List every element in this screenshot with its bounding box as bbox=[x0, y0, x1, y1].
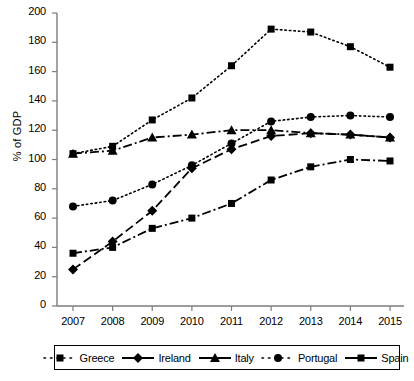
data-point bbox=[70, 250, 77, 257]
data-point bbox=[307, 113, 315, 121]
data-point bbox=[268, 177, 275, 184]
y-axis-ticks bbox=[52, 13, 57, 306]
x-tick-label: 2013 bbox=[291, 315, 331, 327]
data-point bbox=[307, 163, 314, 170]
data-point bbox=[386, 113, 394, 121]
data-point bbox=[387, 64, 394, 71]
x-tick-label: 2008 bbox=[93, 315, 133, 327]
data-point bbox=[228, 200, 235, 207]
legend-item-italy[interactable]: Italy bbox=[198, 351, 257, 365]
data-point bbox=[148, 180, 156, 188]
legend-label: Greece bbox=[80, 352, 115, 364]
series-greece bbox=[70, 26, 394, 158]
x-tick-label: 2010 bbox=[172, 315, 212, 327]
data-point bbox=[149, 116, 156, 123]
data-point bbox=[267, 117, 275, 125]
legend-item-portugal[interactable]: Portugal bbox=[261, 351, 340, 365]
data-point bbox=[268, 26, 275, 33]
x-tick-label: 2009 bbox=[132, 315, 172, 327]
y-tick-label: 60 bbox=[16, 210, 46, 222]
legend-label: Portugal bbox=[298, 352, 337, 364]
data-series-group bbox=[68, 26, 395, 275]
x-tick-label: 2011 bbox=[212, 315, 252, 327]
legend-item-ireland[interactable]: Ireland bbox=[121, 351, 193, 365]
data-point bbox=[69, 202, 77, 210]
legend-swatch-square-icon bbox=[344, 351, 378, 365]
legend-swatch-triangle-icon bbox=[198, 351, 232, 365]
legend-label: Ireland bbox=[158, 352, 190, 364]
x-tick-label: 2007 bbox=[53, 315, 93, 327]
legend-label: Italy bbox=[235, 352, 254, 364]
series-spain bbox=[70, 156, 394, 257]
y-tick-label: 20 bbox=[16, 269, 46, 281]
y-tick-label: 0 bbox=[16, 298, 46, 310]
y-tick-label: 100 bbox=[16, 152, 46, 164]
data-point bbox=[387, 157, 394, 164]
data-point bbox=[228, 139, 236, 147]
chart-legend: GreeceIrelandItalyPortugalSpain bbox=[54, 345, 400, 370]
y-tick-label: 180 bbox=[16, 34, 46, 46]
legend-label: Spain bbox=[381, 352, 408, 364]
debt-to-gdp-line-chart: % of GDP 020406080100120140160180200 200… bbox=[0, 0, 414, 381]
data-point bbox=[347, 43, 354, 50]
y-tick-label: 200 bbox=[16, 5, 46, 17]
x-tick-label: 2012 bbox=[251, 315, 291, 327]
x-tick-label: 2014 bbox=[330, 315, 370, 327]
data-point bbox=[228, 62, 235, 69]
data-point bbox=[188, 215, 195, 222]
legend-swatch-diamond-icon bbox=[121, 351, 155, 365]
legend-swatch-circle-icon bbox=[261, 351, 295, 365]
y-tick-label: 140 bbox=[16, 93, 46, 105]
x-tick-label: 2015 bbox=[370, 315, 410, 327]
data-point bbox=[109, 244, 116, 251]
data-point bbox=[346, 112, 354, 120]
data-point bbox=[307, 29, 314, 36]
y-tick-label: 80 bbox=[16, 181, 46, 193]
data-point bbox=[109, 197, 117, 205]
data-point bbox=[347, 156, 354, 163]
data-point bbox=[188, 94, 195, 101]
data-point bbox=[188, 161, 196, 169]
legend-item-greece[interactable]: Greece bbox=[43, 351, 118, 365]
y-tick-label: 160 bbox=[16, 64, 46, 76]
legend-swatch-square-icon bbox=[43, 351, 77, 365]
x-axis-ticks bbox=[73, 306, 390, 311]
y-tick-label: 120 bbox=[16, 122, 46, 134]
data-point bbox=[149, 225, 156, 232]
y-tick-label: 40 bbox=[16, 239, 46, 251]
legend-item-spain[interactable]: Spain bbox=[344, 351, 411, 365]
